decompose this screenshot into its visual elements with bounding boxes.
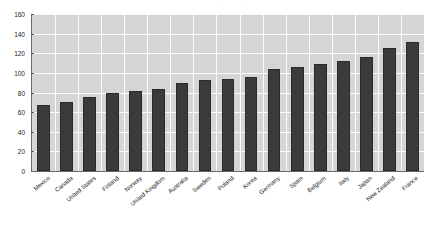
x-tick-label: Finland xyxy=(101,175,121,193)
bar xyxy=(129,91,142,171)
y-tick-mark xyxy=(31,53,34,54)
bar xyxy=(60,102,73,171)
y-tick-label: 20 xyxy=(18,148,25,155)
bar xyxy=(83,97,96,171)
bar xyxy=(37,105,50,171)
gridline-vertical xyxy=(332,14,333,171)
bar xyxy=(314,64,327,171)
bar xyxy=(360,57,373,171)
x-tick-label: Germany xyxy=(258,175,281,196)
y-tick-mark xyxy=(31,34,34,35)
gridline-vertical xyxy=(401,14,402,171)
y-tick-mark xyxy=(31,132,34,133)
bar xyxy=(383,48,396,171)
bar xyxy=(152,89,165,171)
x-tick-label: Korea xyxy=(242,175,259,191)
y-tick-mark xyxy=(31,151,34,152)
y-tick-label: 40 xyxy=(18,128,25,135)
x-tick-label: Spain xyxy=(288,175,304,190)
x-tick-label: Norway xyxy=(123,175,143,193)
gridline-vertical xyxy=(78,14,79,171)
x-tick-label: Sweden xyxy=(191,175,212,194)
gridline-vertical xyxy=(170,14,171,171)
gridline-vertical xyxy=(101,14,102,171)
chart-title: Health Spending xyxy=(0,0,436,2)
y-tick-label: 100 xyxy=(14,69,25,76)
bar xyxy=(176,83,189,171)
y-tick-mark xyxy=(31,93,34,94)
x-tick-label: Japan xyxy=(357,175,374,191)
gridline-vertical xyxy=(378,14,379,171)
y-tick-label: 120 xyxy=(14,50,25,57)
gridline-vertical xyxy=(193,14,194,171)
gridline-vertical xyxy=(355,14,356,171)
gridline-horizontal xyxy=(32,34,424,35)
y-tick-mark xyxy=(31,73,34,74)
gridline-vertical xyxy=(240,14,241,171)
x-tick-label: Canada xyxy=(53,175,74,194)
x-tick-label: Mexico xyxy=(32,175,51,193)
x-tick-label: Poland xyxy=(217,175,236,192)
x-axis: MexicoCanadaUnited StatesFinlandNorwayUn… xyxy=(0,171,436,232)
bar xyxy=(291,67,304,171)
gridline-vertical xyxy=(124,14,125,171)
gridline-vertical xyxy=(55,14,56,171)
bar xyxy=(245,77,258,171)
x-tick-label: Italy xyxy=(338,175,351,187)
gridline-vertical xyxy=(263,14,264,171)
x-tick-label: Belgium xyxy=(307,175,328,194)
bar xyxy=(222,79,235,171)
bar xyxy=(406,42,419,171)
gridline-vertical xyxy=(147,14,148,171)
bar xyxy=(337,61,350,171)
y-tick-label: 80 xyxy=(18,89,25,96)
y-tick-mark xyxy=(31,112,34,113)
gridline-vertical xyxy=(216,14,217,171)
y-tick-label: 160 xyxy=(14,11,25,18)
gridline-vertical xyxy=(309,14,310,171)
y-tick-mark xyxy=(31,14,34,15)
gridline-horizontal xyxy=(32,14,424,15)
bar xyxy=(106,93,119,172)
y-tick-label: 140 xyxy=(14,30,25,37)
plot-area xyxy=(31,14,424,172)
gridline-horizontal xyxy=(32,53,424,54)
x-tick-label: France xyxy=(401,175,420,192)
bar xyxy=(268,69,281,171)
x-tick-label: Australia xyxy=(167,175,189,195)
bar xyxy=(199,80,212,171)
bar-chart: Health Spending 020406080100120140160 Me… xyxy=(0,0,436,232)
gridline-vertical xyxy=(286,14,287,171)
y-tick-label: 60 xyxy=(18,109,25,116)
